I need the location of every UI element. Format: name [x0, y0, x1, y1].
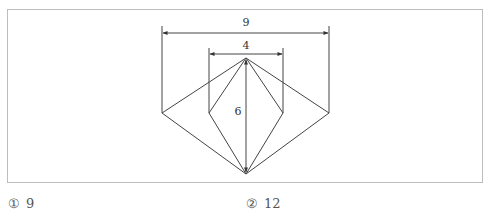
height-label: 6: [235, 105, 242, 118]
dimensioned-kite-diagram: 9 4 6: [0, 0, 491, 219]
choice-marker: ②: [246, 196, 258, 211]
choice-value: 12: [264, 196, 281, 211]
inner-width-label: 4: [243, 39, 250, 52]
choice-marker: ①: [8, 196, 20, 211]
answer-choice-1[interactable]: ①9: [8, 196, 34, 211]
choice-value: 9: [26, 196, 34, 211]
outer-width-label: 9: [243, 16, 250, 29]
answer-choice-2[interactable]: ②12: [246, 196, 281, 211]
